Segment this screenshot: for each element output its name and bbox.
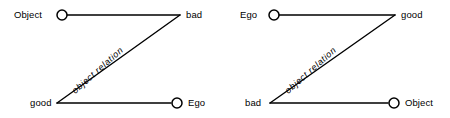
- node-label-bottom-left: bad: [245, 97, 261, 108]
- diagram-left: Object bad good Ego object relation: [0, 0, 225, 118]
- node-label-bottom-right: Ego: [188, 97, 205, 108]
- node-label-top-right: good: [401, 9, 423, 20]
- node-label-top-left: Ego: [240, 9, 257, 20]
- node-circle-top-left: [269, 10, 279, 20]
- node-circle-bottom-right: [172, 98, 182, 108]
- diagram-right: Ego good bad Object object relation: [225, 0, 450, 118]
- figure-canvas: Object bad good Ego object relation Ego …: [0, 0, 450, 118]
- node-label-bottom-left: good: [30, 97, 52, 108]
- node-label-top-right: bad: [186, 9, 202, 20]
- node-label-top-left: Object: [14, 9, 42, 20]
- node-circle-top-left: [57, 10, 67, 20]
- node-circle-bottom-right: [389, 98, 399, 108]
- node-label-bottom-right: Object: [405, 97, 433, 108]
